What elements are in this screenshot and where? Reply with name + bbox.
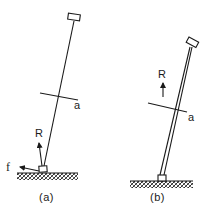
section-line-b	[148, 103, 187, 112]
panel-a	[17, 13, 80, 180]
top-block-b	[186, 37, 199, 47]
base-block-b	[158, 175, 166, 181]
base-block-a	[39, 166, 47, 173]
caption-b: (b)	[150, 192, 165, 203]
label-f-a: f	[6, 161, 10, 173]
diagram-canvas	[0, 0, 208, 210]
ground-b	[130, 181, 193, 188]
label-section-a: a	[74, 100, 80, 111]
caption-a: (a)	[39, 192, 54, 203]
label-section-b: a	[188, 112, 194, 123]
ground-a	[17, 173, 78, 180]
force-R-arrow-a	[39, 143, 42, 166]
top-block-a	[68, 13, 81, 21]
label-R-b: R	[158, 69, 166, 80]
label-R-a: R	[35, 128, 43, 139]
force-f-arrow-a	[20, 167, 39, 171]
pole-b-left	[160, 47, 190, 175]
pole-a	[44, 21, 74, 166]
